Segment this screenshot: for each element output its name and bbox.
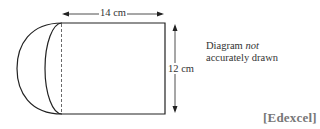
note-prefix: Diagram [206, 40, 245, 51]
source-label: [Edexcel] [263, 110, 317, 126]
semicircle-outline [45, 23, 62, 114]
note-line2: accurately drawn [206, 52, 278, 64]
rectangle-outline [62, 23, 165, 114]
width-label: 14 cm [99, 7, 127, 18]
note-emphasis: not [245, 40, 258, 51]
height-label: 12 cm [167, 63, 195, 74]
diagram-note: Diagram not accurately drawn [206, 40, 278, 64]
